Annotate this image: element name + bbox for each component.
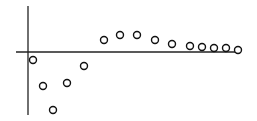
- data-point: [199, 44, 206, 51]
- data-point: [235, 47, 242, 54]
- data-point: [134, 32, 141, 39]
- data-point: [30, 57, 37, 64]
- data-point: [64, 80, 71, 87]
- data-point: [50, 107, 57, 114]
- data-point: [211, 45, 218, 52]
- scatter-chart: [0, 0, 257, 121]
- data-point: [169, 41, 176, 48]
- data-point: [40, 83, 47, 90]
- data-point: [187, 43, 194, 50]
- data-points: [30, 32, 242, 114]
- data-point: [152, 37, 159, 44]
- data-point: [81, 63, 88, 70]
- data-point: [223, 45, 230, 52]
- data-point: [101, 37, 108, 44]
- data-point: [117, 32, 124, 39]
